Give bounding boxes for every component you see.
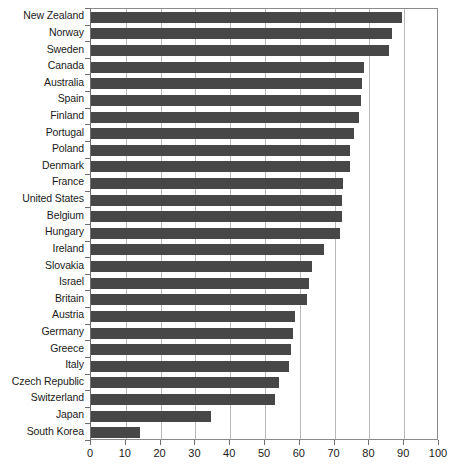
gridline-40	[230, 9, 231, 439]
category-label: United States	[0, 193, 84, 204]
y-axis-tick	[85, 191, 90, 192]
plot-area	[90, 8, 438, 440]
bar	[91, 128, 354, 139]
category-label: Italy	[0, 359, 84, 370]
category-label: Denmark	[0, 160, 84, 171]
category-label: Sweden	[0, 44, 84, 55]
y-axis-tick	[85, 357, 90, 358]
y-axis-tick	[85, 307, 90, 308]
category-label-column: New ZealandNorwaySwedenCanadaAustraliaSp…	[0, 8, 84, 440]
category-label: Hungary	[0, 226, 84, 237]
bar	[91, 112, 359, 123]
y-axis-tick	[85, 274, 90, 275]
category-label: Ireland	[0, 243, 84, 254]
y-axis-tick	[85, 340, 90, 341]
bar	[91, 12, 402, 23]
y-axis-tick	[85, 8, 90, 9]
gridline-20	[161, 9, 162, 439]
y-axis-tick	[85, 91, 90, 92]
bar	[91, 145, 350, 156]
x-axis-tick-label: 20	[153, 447, 165, 460]
gridline-50	[265, 9, 266, 439]
y-axis-tick	[85, 407, 90, 408]
y-axis-tick	[85, 174, 90, 175]
x-axis-tick	[264, 440, 265, 445]
category-label: Switzerland	[0, 392, 84, 403]
category-label: Slovakia	[0, 260, 84, 271]
bar	[91, 161, 350, 172]
x-axis-tick	[403, 440, 404, 445]
bar	[91, 394, 275, 405]
bar	[91, 78, 362, 89]
gridline-60	[300, 9, 301, 439]
bar	[91, 427, 140, 438]
category-label: Germany	[0, 326, 84, 337]
bar	[91, 328, 293, 339]
x-axis-tick	[438, 440, 439, 445]
category-label: Britain	[0, 293, 84, 304]
y-axis-tick	[85, 257, 90, 258]
y-axis-tick	[85, 74, 90, 75]
bar	[91, 211, 342, 222]
gridline-70	[335, 9, 336, 439]
bar	[91, 178, 343, 189]
category-label: France	[0, 176, 84, 187]
y-axis-tick	[85, 124, 90, 125]
y-axis-tick	[85, 423, 90, 424]
x-axis-tick	[125, 440, 126, 445]
category-label: Czech Republic	[0, 376, 84, 387]
x-axis-tick-label: 100	[429, 447, 447, 460]
category-label: Poland	[0, 143, 84, 154]
x-axis-tick-label: 70	[327, 447, 339, 460]
bar	[91, 278, 309, 289]
y-axis-tick	[85, 58, 90, 59]
bar	[91, 62, 364, 73]
bar	[91, 28, 392, 39]
gridline-80	[369, 9, 370, 439]
category-label: Finland	[0, 110, 84, 121]
y-axis-tick	[85, 41, 90, 42]
bar	[91, 45, 389, 56]
bar-chart: New ZealandNorwaySwedenCanadaAustraliaSp…	[0, 0, 460, 470]
bar	[91, 361, 289, 372]
y-axis-tick	[85, 290, 90, 291]
y-axis-tick	[85, 440, 90, 441]
category-label: Japan	[0, 409, 84, 420]
bar	[91, 344, 291, 355]
category-label: Canada	[0, 60, 84, 71]
x-axis-tick	[334, 440, 335, 445]
bar	[91, 244, 324, 255]
category-label: Norway	[0, 27, 84, 38]
bar	[91, 311, 295, 322]
category-label: Portugal	[0, 127, 84, 138]
x-axis-tick	[299, 440, 300, 445]
x-axis: 0102030405060708090100	[90, 440, 438, 470]
y-axis-tick	[85, 207, 90, 208]
bar	[91, 377, 279, 388]
x-axis-tick-label: 0	[87, 447, 93, 460]
y-axis-tick	[85, 374, 90, 375]
bar	[91, 95, 361, 106]
y-axis-tick	[85, 141, 90, 142]
x-axis-tick	[368, 440, 369, 445]
bar	[91, 294, 307, 305]
y-axis-tick	[85, 158, 90, 159]
bar	[91, 261, 312, 272]
x-axis-tick	[90, 440, 91, 445]
category-label: New Zealand	[0, 10, 84, 21]
x-axis-tick	[160, 440, 161, 445]
bar	[91, 411, 211, 422]
y-axis-tick	[85, 241, 90, 242]
category-label: South Korea	[0, 426, 84, 437]
x-axis-tick-label: 90	[397, 447, 409, 460]
x-axis-tick-label: 40	[223, 447, 235, 460]
bar	[91, 228, 340, 239]
category-label: Spain	[0, 93, 84, 104]
bar	[91, 195, 342, 206]
category-label: Australia	[0, 77, 84, 88]
x-axis-tick-label: 50	[258, 447, 270, 460]
gridline-30	[195, 9, 196, 439]
x-axis-tick-label: 30	[188, 447, 200, 460]
category-label: Belgium	[0, 210, 84, 221]
y-axis-tick	[85, 224, 90, 225]
